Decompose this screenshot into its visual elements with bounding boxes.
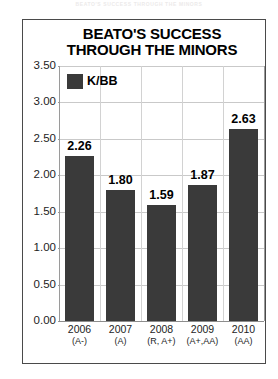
bar[interactable] [188, 185, 217, 321]
bar-value-label: 2.26 [59, 140, 100, 153]
y-tick-label: 2.50 [22, 133, 56, 144]
x-axis-category-year: 2007 [100, 323, 141, 335]
y-tick-label: 1.50 [22, 206, 56, 217]
chart-title: BEATO'S SUCCESS THROUGH THE MINORS [41, 26, 263, 58]
x-axis-category: 2008(R, A+) [141, 323, 182, 347]
gridline-vertical [100, 66, 101, 321]
legend-label-k-bb: K/BB [87, 75, 118, 88]
plot-area: 2.261.801.591.872.63 K/BB [59, 66, 264, 321]
chart-title-line-2: THROUGH THE MINORS [41, 42, 263, 58]
gridline-vertical [59, 66, 60, 321]
y-tick-label: 0.00 [22, 315, 56, 326]
bar[interactable] [147, 205, 176, 321]
chart-frame: BEATO'S SUCCESS THROUGH THE MINORS 3.503… [22, 19, 266, 364]
y-tick-label: 0.50 [22, 279, 56, 290]
y-tick-label: 2.00 [22, 169, 56, 180]
y-tick-label: 3.50 [22, 60, 56, 71]
x-axis-category: 2009(A+,AA) [182, 323, 223, 347]
bar-value-label: 2.63 [223, 113, 264, 126]
bar[interactable] [65, 156, 94, 321]
gridline-horizontal [59, 321, 264, 322]
x-axis-category-year: 2010 [223, 323, 264, 335]
x-axis-category-level: (AA) [223, 335, 264, 347]
bar-value-label: 1.80 [100, 174, 141, 187]
x-axis-category: 2007(A) [100, 323, 141, 347]
gridline-vertical [182, 66, 183, 321]
x-axis-category-year: 2008 [141, 323, 182, 335]
bar-value-label: 1.59 [141, 189, 182, 202]
x-axis-category-level: (R, A+) [141, 335, 182, 347]
gridline-vertical [264, 66, 265, 321]
masthead-text: BEATO'S SUCCESS THROUGH THE MINORS [0, 1, 278, 7]
y-tick-label: 1.00 [22, 242, 56, 253]
chart-title-line-1: BEATO'S SUCCESS [41, 26, 263, 42]
bar-value-label: 1.87 [182, 169, 223, 182]
x-axis-category-level: (A) [100, 335, 141, 347]
gridline-horizontal [59, 66, 264, 67]
bar[interactable] [229, 129, 258, 321]
y-axis-labels: 3.503.002.502.001.501.000.500.00 [23, 20, 56, 365]
x-axis-category-level: (A-) [59, 335, 100, 347]
gridline-vertical [223, 66, 224, 321]
x-axis-category: 2010(AA) [223, 323, 264, 347]
y-tick-label: 3.00 [22, 96, 56, 107]
bar[interactable] [106, 190, 135, 321]
x-axis-category-year: 2006 [59, 323, 100, 335]
x-axis-category-level: (A+,AA) [182, 335, 223, 347]
x-axis-category: 2006(A-) [59, 323, 100, 347]
legend: K/BB [67, 74, 118, 89]
x-axis-category-year: 2009 [182, 323, 223, 335]
gridline-horizontal [59, 102, 264, 103]
legend-swatch-k-bb [67, 74, 83, 89]
x-axis-labels: 2006(A-)2007(A)2008(R, A+)2009(A+,AA)201… [59, 323, 264, 359]
